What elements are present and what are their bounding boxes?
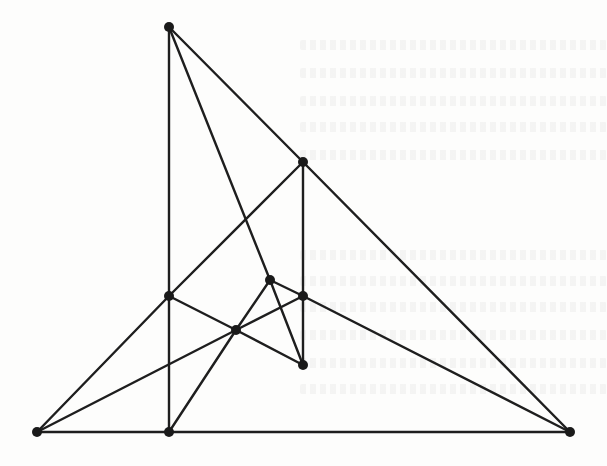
vertex-E — [298, 291, 308, 301]
edge-F-G — [236, 330, 303, 365]
edge-H-F — [37, 330, 236, 432]
edge-A-D — [169, 27, 270, 280]
vertex-G — [298, 360, 308, 370]
edge-F-E — [236, 296, 303, 330]
vertex-D — [265, 275, 275, 285]
edge-E-J — [303, 296, 570, 432]
vertex-F — [231, 325, 241, 335]
vertex-B — [298, 157, 308, 167]
vertex-C — [164, 291, 174, 301]
vertex-J — [565, 427, 575, 437]
geometric-graph-diagram — [0, 0, 607, 466]
edge-C-H — [37, 296, 169, 432]
page-background — [0, 0, 607, 466]
vertex-I — [164, 427, 174, 437]
graph-edges — [37, 27, 570, 432]
edge-B-C — [169, 162, 303, 296]
edge-A-B — [169, 27, 303, 162]
vertex-H — [32, 427, 42, 437]
vertex-A — [164, 22, 174, 32]
edge-I-F — [169, 330, 236, 432]
edge-C-F — [169, 296, 236, 330]
edge-B-J — [303, 162, 570, 432]
